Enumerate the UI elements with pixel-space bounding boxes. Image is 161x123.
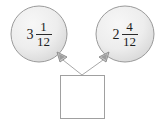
left-arrowhead-icon <box>57 52 67 62</box>
answer-box-value[interactable] <box>60 75 105 119</box>
fraction-diagram: 3 1 12 2 4 12 <box>0 0 161 123</box>
left-connector-line <box>63 60 82 75</box>
right-connector-line <box>82 60 103 75</box>
